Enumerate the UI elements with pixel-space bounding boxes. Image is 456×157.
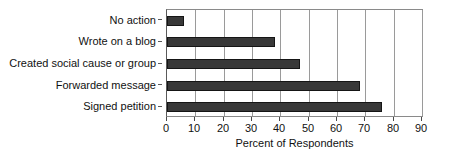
category-label: Signed petition — [83, 100, 156, 112]
x-axis-tick — [364, 117, 365, 121]
x-axis-tick — [194, 117, 195, 121]
x-axis-tick — [251, 117, 252, 121]
x-axis-tick — [166, 117, 167, 121]
x-axis-tick-label: 40 — [267, 122, 291, 134]
bar-chart: No actionWrote on a blogCreated social c… — [0, 0, 456, 157]
x-axis-tick — [223, 117, 224, 121]
x-axis-tick-label: 10 — [182, 122, 206, 134]
x-axis-tick — [279, 117, 280, 121]
x-axis-tick-label: 90 — [409, 122, 433, 134]
bar — [167, 59, 300, 69]
gridline — [365, 10, 366, 116]
category-tick — [158, 84, 162, 85]
category-label: Forwarded message — [56, 79, 156, 91]
category-label: Wrote on a blog — [79, 35, 156, 47]
category-tick — [158, 106, 162, 107]
x-axis-tick-label: 30 — [239, 122, 263, 134]
x-axis-tick-label: 70 — [352, 122, 376, 134]
x-axis-tick — [308, 117, 309, 121]
x-axis-tick-label: 50 — [296, 122, 320, 134]
plot-area — [166, 9, 423, 117]
bar — [167, 81, 360, 91]
category-axis: No actionWrote on a blogCreated social c… — [0, 9, 162, 117]
x-axis-tick — [393, 117, 394, 121]
x-axis-tick — [421, 117, 422, 121]
gridline — [337, 10, 338, 116]
gridline — [394, 10, 395, 116]
x-axis-tick-label: 80 — [381, 122, 405, 134]
category-label: No action — [110, 14, 156, 26]
bar — [167, 102, 382, 112]
category-label: Created social cause or group — [9, 57, 156, 69]
x-axis-tick-label: 0 — [154, 122, 178, 134]
bar — [167, 37, 275, 47]
x-axis-title: Percent of Respondents — [166, 136, 423, 150]
gridline — [422, 10, 423, 116]
value-axis: 0102030405060708090 — [166, 117, 423, 137]
x-axis-tick-label: 20 — [211, 122, 235, 134]
x-axis-tick — [336, 117, 337, 121]
category-tick — [158, 19, 162, 20]
category-tick — [158, 63, 162, 64]
bar — [167, 16, 184, 26]
category-tick — [158, 41, 162, 42]
x-axis-tick-label: 60 — [324, 122, 348, 134]
gridline — [309, 10, 310, 116]
